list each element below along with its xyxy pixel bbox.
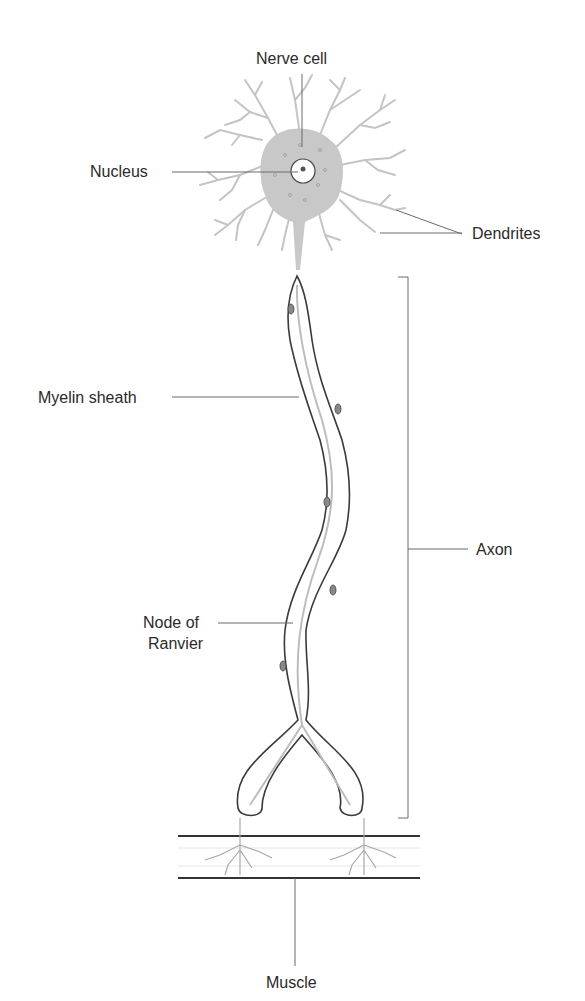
label-node-of-ranvier-line2: Ranvier [148, 634, 203, 653]
label-axon: Axon [476, 540, 512, 559]
label-muscle: Muscle [266, 973, 317, 992]
label-nerve-cell: Nerve cell [256, 49, 327, 68]
label-myelin-sheath: Myelin sheath [38, 388, 137, 407]
nucleolus-graphic [301, 167, 306, 172]
label-dendrites: Dendrites [472, 224, 540, 243]
neuron-diagram [0, 0, 585, 1001]
axon-graphic [237, 276, 363, 816]
muscle-graphic [178, 818, 420, 878]
label-node-of-ranvier-line1: Node of [143, 613, 199, 632]
label-nucleus: Nucleus [90, 162, 148, 181]
